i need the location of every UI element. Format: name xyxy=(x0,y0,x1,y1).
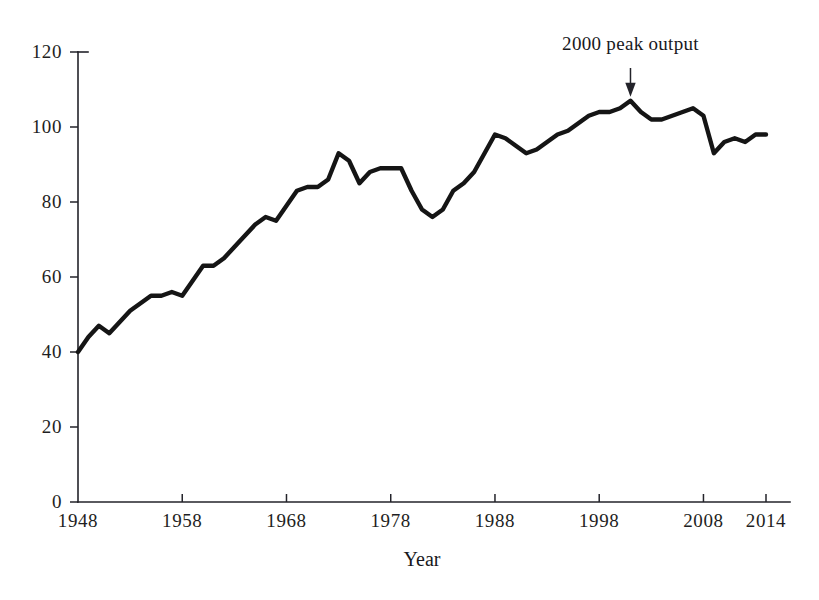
x-tick-label: 1988 xyxy=(475,510,515,532)
y-tick-label: 60 xyxy=(0,266,62,288)
annotation-arrow-head xyxy=(625,83,635,97)
output-series-line xyxy=(78,101,766,352)
x-tick-label: 2014 xyxy=(746,510,786,532)
x-tick-label: 1998 xyxy=(579,510,619,532)
y-tick-label: 40 xyxy=(0,341,62,363)
y-tick-label: 80 xyxy=(0,191,62,213)
x-tick-label: 1968 xyxy=(266,510,306,532)
peak-output-annotation-label: 2000 peak output xyxy=(562,33,699,55)
chart-root: 020406080100120 194819581968197819881998… xyxy=(0,0,819,600)
x-tick-label: 1978 xyxy=(371,510,411,532)
x-tick-label: 1958 xyxy=(162,510,202,532)
annotation-arrow xyxy=(625,68,635,97)
x-tick-label: 1948 xyxy=(58,510,98,532)
x-axis-title: Year xyxy=(404,548,441,571)
x-tick-label: 2008 xyxy=(683,510,723,532)
y-tick-marks xyxy=(70,52,78,502)
axes-group xyxy=(78,52,790,502)
y-tick-label: 100 xyxy=(0,116,62,138)
y-tick-label: 20 xyxy=(0,416,62,438)
x-tick-marks xyxy=(182,494,766,502)
y-tick-label: 120 xyxy=(0,41,62,63)
y-tick-label: 0 xyxy=(0,491,62,513)
